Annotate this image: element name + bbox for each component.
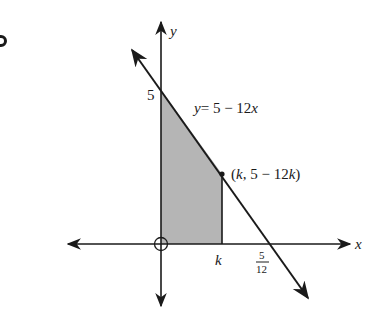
- equation-rest: = 5 − 12: [201, 100, 252, 116]
- point-mid: , 5 − 12: [243, 166, 289, 182]
- k-tick-label: k: [215, 252, 222, 268]
- diagram-canvas: y x 5 y= 5 − 12x (k, 5 − 12k) k 5 12: [0, 0, 380, 323]
- fraction-denominator: 12: [256, 263, 267, 275]
- equation-y: y: [192, 100, 201, 116]
- y-intercept-label: 5: [147, 87, 155, 103]
- bullet-marker: [0, 37, 6, 46]
- fraction-numerator: 5: [259, 249, 265, 261]
- x-axis-label: x: [354, 236, 362, 252]
- equation-x: x: [250, 100, 258, 116]
- equation-label: y= 5 − 12x: [192, 100, 258, 116]
- point-close: ): [295, 166, 300, 183]
- point-label: (k, 5 − 12k): [231, 166, 300, 183]
- point-k: [219, 171, 224, 176]
- y-axis-label: y: [168, 23, 177, 39]
